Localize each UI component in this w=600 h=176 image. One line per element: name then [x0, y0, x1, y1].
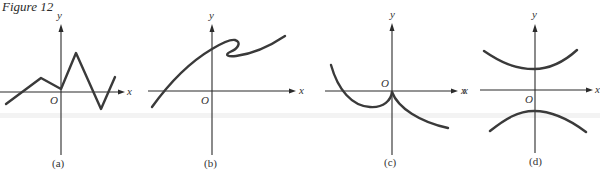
- figure-canvas: y x O (a) y x O (b) y x O (c) y x: [0, 0, 600, 176]
- origin-label: O: [50, 94, 58, 106]
- upper-hyperbola-branch: [484, 50, 577, 69]
- x-axis-arrow-icon: [118, 90, 125, 95]
- right-branch-curve: [392, 92, 448, 128]
- x-axis-arrow-icon: [586, 88, 593, 93]
- panel-c: y x O (c): [325, 8, 466, 169]
- x-axis-arrow-icon: [451, 89, 458, 94]
- x-label: x: [594, 83, 600, 95]
- origin-label: O: [525, 93, 533, 105]
- y-axis-arrow-icon: [59, 24, 64, 32]
- y-axis-arrow-icon: [390, 23, 395, 31]
- x-label: x: [298, 84, 304, 96]
- caption: (a): [52, 157, 65, 170]
- panel-d: y x x O (d): [462, 8, 600, 168]
- y-label: y: [208, 9, 214, 21]
- caption: (d): [529, 155, 542, 168]
- caption: (b): [204, 157, 217, 170]
- y-axis-arrow-icon: [533, 24, 538, 32]
- x-axis-arrow-icon: [289, 89, 296, 94]
- x-label: x: [126, 85, 132, 97]
- origin-label: O: [381, 77, 389, 89]
- panel-b: y x O (b): [148, 9, 304, 170]
- panel-a: y x O (a): [0, 9, 132, 170]
- folded-curve: [152, 36, 285, 107]
- x-label-left: x: [462, 84, 468, 96]
- origin-label: O: [201, 94, 209, 106]
- y-axis-arrow-icon: [210, 24, 215, 32]
- y-label: y: [56, 9, 62, 21]
- caption: (c): [384, 156, 397, 169]
- y-label: y: [531, 8, 537, 20]
- y-label: y: [389, 8, 395, 20]
